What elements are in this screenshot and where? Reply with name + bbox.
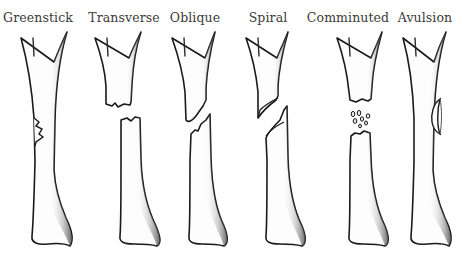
fracture-types-diagram: Greenstick Transverse Oblique Spiral Com…	[0, 0, 470, 260]
bone-oblique	[172, 32, 227, 246]
bone-avulsion	[403, 32, 451, 246]
bone-spiral	[246, 32, 305, 246]
bone-comminuted	[337, 32, 388, 246]
bone-greenstick	[21, 32, 72, 246]
bone-fragments	[351, 110, 370, 127]
bones-illustration	[0, 0, 470, 260]
bone-transverse	[95, 32, 160, 246]
